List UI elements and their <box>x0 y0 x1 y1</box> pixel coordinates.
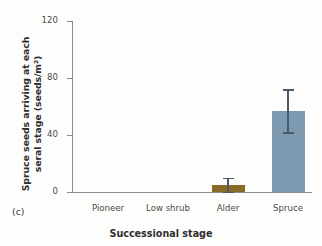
panel-label: (c) <box>12 206 24 217</box>
y-tick-40: 40 <box>67 135 72 136</box>
error-bar-spruce <box>287 89 288 132</box>
y-tick-label-80: 80 <box>47 72 58 82</box>
error-bar-alder <box>227 178 228 192</box>
y-axis-line <box>72 21 73 193</box>
error-cap-lower-alder <box>223 192 234 193</box>
figure-panel-c: Spruce seeds arriving at each seral stag… <box>0 0 322 246</box>
y-tick-label-120: 120 <box>42 15 58 25</box>
x-tick-label-pioneer: Pioneer <box>92 203 124 213</box>
x-tick-label-spruce: Spruce <box>273 203 303 213</box>
error-cap-upper-spruce <box>283 89 294 90</box>
x-tick-label-low-shrub: Low shrub <box>146 203 190 213</box>
y-tick-120: 120 <box>67 21 72 22</box>
error-cap-lower-spruce <box>283 132 294 133</box>
y-tick-0: 0 <box>67 192 72 193</box>
y-axis-title: Spruce seeds arriving at each seral stag… <box>15 14 49 214</box>
y-axis-title-line-2: seral stage (seeds/m²) <box>32 56 44 172</box>
x-tick-label-alder: Alder <box>217 203 240 213</box>
error-cap-upper-alder <box>223 178 234 179</box>
y-axis-title-line-1: Spruce seeds arriving at each <box>20 37 32 192</box>
x-axis-title: Successional stage <box>0 228 322 239</box>
y-tick-80: 80 <box>67 78 72 79</box>
y-tick-label-0: 0 <box>53 186 58 196</box>
y-tick-label-40: 40 <box>47 129 58 139</box>
plot-area: 04080120 PioneerLow shrubAlderSpruce <box>72 21 312 193</box>
x-axis-line <box>72 192 312 193</box>
